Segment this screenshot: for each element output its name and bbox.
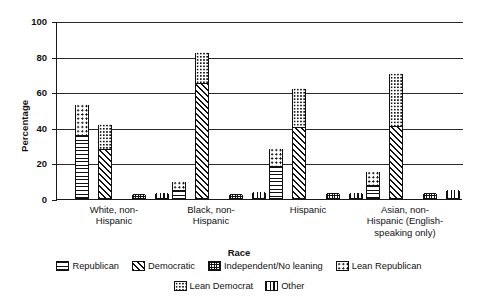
- plot-area: [56, 22, 462, 200]
- bar-independent-no-leaning: [326, 194, 340, 199]
- bar-democratic: [98, 125, 112, 199]
- legend-swatch-small-dots-icon: [174, 281, 187, 291]
- bar-independent-no-leaning: [132, 195, 146, 199]
- y-axis-tick: [52, 200, 57, 201]
- bar-democratic: [292, 89, 306, 199]
- legend-label: Other: [281, 281, 304, 291]
- legend-swatch-horizontal-lines-icon: [56, 261, 69, 271]
- bar-chart: Percentage 020406080100 White, non- Hisp…: [0, 0, 478, 308]
- bar-democratic: [389, 74, 403, 199]
- bar-segment-other: [350, 193, 362, 198]
- legend-item[interactable]: Lean Democrat: [174, 281, 254, 291]
- bar-segment-republican: [367, 186, 379, 198]
- y-axis-tick-label: 40: [0, 124, 47, 134]
- y-axis-tick-label: 80: [0, 53, 47, 63]
- bar-segment-lean-democrat: [196, 52, 208, 84]
- bar-segment-other: [447, 190, 459, 198]
- bar-other: [155, 194, 169, 199]
- bar-segment-republican: [76, 136, 88, 198]
- legend-row-primary: RepublicanDemocraticIndependent/No leani…: [0, 261, 478, 271]
- bar-segment-independent-no-leaning: [133, 194, 145, 198]
- bar-segment-republican: [173, 191, 185, 198]
- bar-democratic: [195, 53, 209, 199]
- legend-row-secondary: Lean DemocratOther: [0, 281, 478, 291]
- bar-segment-lean-democrat: [390, 73, 402, 127]
- bar-segment-democratic: [293, 128, 305, 198]
- bar-segment-democratic: [390, 127, 402, 198]
- bar-republican: [75, 105, 89, 199]
- bar-segment-independent-no-leaning: [424, 193, 436, 198]
- legend-item[interactable]: Lean Republican: [336, 261, 422, 271]
- bar-segment-republican: [270, 167, 282, 198]
- x-axis-title: Race: [0, 247, 478, 258]
- bar-segment-lean-republican: [270, 148, 282, 167]
- y-axis-tick: [52, 93, 57, 94]
- bar-independent-no-leaning: [229, 195, 243, 199]
- legend-item[interactable]: Republican: [56, 261, 119, 271]
- legend-label: Lean Republican: [352, 261, 422, 271]
- gridline: [57, 22, 463, 23]
- bar-other: [446, 191, 460, 199]
- legend-label: Lean Democrat: [190, 281, 254, 291]
- gridline: [57, 58, 463, 59]
- legend-swatch-vertical-lines-icon: [265, 281, 278, 291]
- bar-segment-independent-no-leaning: [230, 194, 242, 198]
- legend-item[interactable]: Other: [265, 281, 304, 291]
- y-axis-tick-label: 100: [0, 17, 47, 27]
- bar-segment-lean-democrat: [293, 88, 305, 128]
- y-axis-tick-label: 0: [0, 195, 47, 205]
- y-axis-tick: [52, 129, 57, 130]
- bar-segment-lean-republican: [367, 171, 379, 185]
- y-axis-tick: [52, 58, 57, 59]
- bar-republican: [366, 172, 380, 199]
- bar-other: [349, 194, 363, 199]
- legend-swatch-diagonal-hatch-icon: [132, 261, 145, 271]
- legend-label: Democratic: [148, 261, 195, 271]
- bar-segment-democratic: [99, 150, 111, 198]
- scan-artifact-header: [0, 0, 478, 11]
- y-axis-tick-label: 20: [0, 159, 47, 169]
- y-axis-tick: [52, 22, 57, 23]
- bar-segment-other: [156, 193, 168, 198]
- y-axis-tick-label: 60: [0, 88, 47, 98]
- legend-swatch-large-dots-icon: [336, 261, 349, 271]
- bar-segment-lean-republican: [173, 181, 185, 191]
- legend-label: Republican: [72, 261, 119, 271]
- x-axis-category-label: Asian, non- Hispanic (English- speaking …: [346, 204, 464, 238]
- bar-republican: [269, 149, 283, 199]
- bar-segment-lean-republican: [76, 104, 88, 136]
- bar-segment-democratic: [196, 84, 208, 198]
- bar-other: [252, 193, 266, 199]
- legend-item[interactable]: Democratic: [132, 261, 195, 271]
- bar-segment-lean-democrat: [99, 124, 111, 150]
- bar-independent-no-leaning: [423, 194, 437, 199]
- legend-label: Independent/No leaning: [224, 261, 323, 271]
- legend-swatch-checker-icon: [208, 261, 221, 271]
- bar-republican: [172, 182, 186, 199]
- bar-segment-independent-no-leaning: [327, 193, 339, 198]
- legend-item[interactable]: Independent/No leaning: [208, 261, 323, 271]
- y-axis-title-wrap: Percentage: [6, 74, 20, 154]
- y-axis-tick: [52, 164, 57, 165]
- bar-segment-other: [253, 192, 265, 198]
